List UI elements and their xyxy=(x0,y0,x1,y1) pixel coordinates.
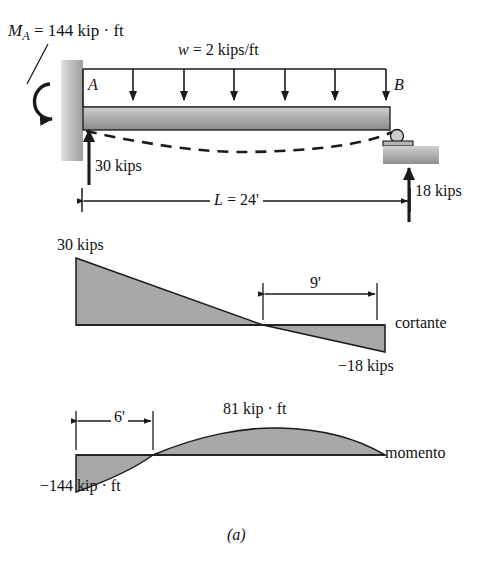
deflection-curve xyxy=(86,131,392,152)
applied-moment-label: MA = 144 kip · ft xyxy=(8,22,124,43)
moment-symbol: M xyxy=(8,21,22,40)
span-equals: = xyxy=(227,191,236,208)
span-symbol: L xyxy=(214,191,223,208)
figure-caption: (a) xyxy=(227,527,246,543)
distributed-load-arrows xyxy=(83,69,390,107)
load-equals: = xyxy=(193,41,202,58)
node-label-b: B xyxy=(394,77,404,93)
shear-diagram-name: cortante xyxy=(395,315,447,331)
span-length-label: L = 24' xyxy=(210,192,263,208)
applied-moment-arrow xyxy=(27,44,52,119)
moment-max-label: 81 kip · ft xyxy=(223,401,287,417)
moment-value: 144 kip · ft xyxy=(48,21,124,40)
node-label-a: A xyxy=(88,77,98,93)
moment-dimension-label: 6' xyxy=(111,409,128,425)
distributed-load-label: w = 2 kips/ft xyxy=(178,42,259,58)
shear-min-label: −18 kips xyxy=(338,358,394,374)
shear-diagram xyxy=(76,258,385,352)
load-symbol: w xyxy=(178,41,189,58)
shear-dimension-label: 9' xyxy=(307,275,324,291)
shear-max-label: 30 kips xyxy=(57,237,104,253)
moment-equals: = xyxy=(34,21,44,40)
roller-support xyxy=(383,130,439,165)
reaction-right-label: 18 kips xyxy=(415,183,462,199)
beam-shear-moment-figure: MA = 144 kip · ft w = 2 kips/ft A B 30 k… xyxy=(0,0,485,565)
moment-subscript: A xyxy=(22,29,29,43)
span-value: 24' xyxy=(240,191,259,208)
reaction-left-label: 30 kips xyxy=(95,158,142,174)
beam-body xyxy=(83,107,390,130)
load-value: 2 kips/ft xyxy=(206,41,259,58)
fixed-wall-support xyxy=(61,60,83,161)
moment-min-label: −144 kip · ft xyxy=(40,478,121,494)
moment-diagram-name: momento xyxy=(385,445,445,461)
